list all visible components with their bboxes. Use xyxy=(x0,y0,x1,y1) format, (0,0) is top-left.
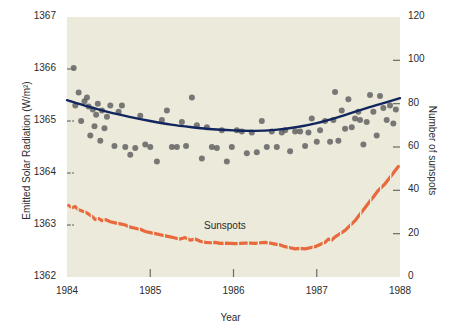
series-label-sunspots: Sunspots xyxy=(204,220,246,231)
x-tick-1984: 1984 xyxy=(45,285,89,296)
x-axis-title: Year xyxy=(0,312,461,323)
y-right-tick-120: 120 xyxy=(408,10,442,21)
y-right-tick-40: 40 xyxy=(408,183,442,194)
y-left-tick-1363: 1363 xyxy=(22,218,56,229)
x-tick-1985: 1985 xyxy=(128,285,172,296)
x-tick-1987: 1987 xyxy=(295,285,339,296)
chart-figure: Emitted Solar Radiation (W/m²) Number of… xyxy=(0,0,461,335)
y-left-tick-1366: 1366 xyxy=(22,62,56,73)
x-tick-1988: 1988 xyxy=(378,285,422,296)
y-right-tick-20: 20 xyxy=(408,227,442,238)
y-right-tick-60: 60 xyxy=(408,140,442,151)
y-axis-left-title: Emitted Solar Radiation (W/m²) xyxy=(21,71,32,231)
x-tick-1986: 1986 xyxy=(212,285,256,296)
y-right-tick-0: 0 xyxy=(408,270,442,281)
y-left-tick-1365: 1365 xyxy=(22,114,56,125)
y-left-tick-1364: 1364 xyxy=(22,166,56,177)
y-right-tick-100: 100 xyxy=(408,53,442,64)
y-left-tick-1362: 1362 xyxy=(22,270,56,281)
y-left-tick-1367: 1367 xyxy=(22,10,56,21)
y-right-tick-80: 80 xyxy=(408,97,442,108)
